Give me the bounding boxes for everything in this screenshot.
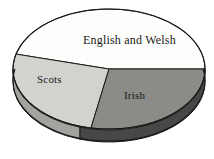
pie-chart-figure: English and Welsh Scots Irish <box>0 0 214 159</box>
slice-top-irish <box>91 69 205 129</box>
pie-chart-graphic <box>0 0 214 159</box>
